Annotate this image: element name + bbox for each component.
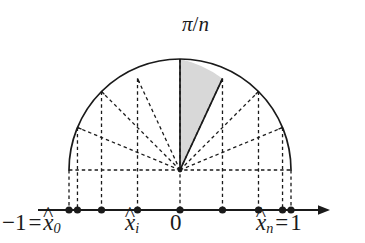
angle-denominator: n [198, 12, 209, 36]
semicircle-partition-figure [0, 0, 365, 243]
left-subscript: 0 [54, 220, 61, 236]
left-hat-accent: ^ [43, 204, 53, 226]
sample-hat-variable: ^x [125, 211, 135, 234]
sample-point-label: ^xi [125, 211, 139, 235]
center-point-dot [178, 168, 183, 173]
axis-dot-x1 [74, 206, 81, 213]
right-endpoint-label: ^xn = 1 [256, 211, 302, 235]
left-equals: = [28, 210, 41, 235]
axis-arrowhead-icon [318, 205, 330, 215]
sample-subscript: i [135, 220, 139, 236]
left-endpoint-label: −1 = ^x0 [2, 211, 61, 235]
radial-spoke-112 [138, 79, 180, 170]
axis-dot-x0 [65, 206, 72, 213]
right-hat-variable: ^x [256, 211, 266, 234]
right-hat-accent: ^ [256, 204, 266, 226]
right-equals: = [275, 210, 288, 235]
angle-numerator: π [182, 12, 193, 36]
radial-spoke-157 [77, 128, 180, 170]
angle-label: π/n [182, 14, 209, 35]
sample-hat-accent: ^ [125, 204, 135, 226]
right-one: 1 [290, 210, 302, 235]
left-hat-variable: ^x [43, 211, 53, 234]
origin-label: 0 [170, 211, 182, 234]
axis-dot-x2 [98, 206, 105, 213]
shaded-sector [180, 59, 222, 170]
left-minus-one: −1 [2, 210, 26, 235]
axis-dot-x5 [219, 206, 226, 213]
radial-spoke-135 [102, 92, 180, 170]
